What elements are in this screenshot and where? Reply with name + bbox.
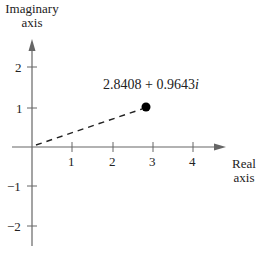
y-tick-label-neg2: −2 xyxy=(7,220,21,233)
imaginary-axis-label-line1: Imaginary xyxy=(1,2,63,16)
point-label-value: 2.8408 + 0.9643 xyxy=(103,77,195,92)
y-tick-label-2: 2 xyxy=(15,61,22,74)
imaginary-axis-label-line2: axis xyxy=(1,16,63,30)
imaginary-axis-label: Imaginary axis xyxy=(1,2,63,30)
y-tick-label-neg1: −1 xyxy=(7,180,21,193)
complex-point xyxy=(142,103,151,112)
imaginary-axis-arrow-icon xyxy=(29,39,36,51)
x-tick-label-1: 1 xyxy=(68,155,75,168)
x-tick-label-2: 2 xyxy=(109,155,116,168)
real-axis-arrow-icon xyxy=(214,144,226,151)
vector-dashed-line xyxy=(36,109,142,145)
real-axis-label-line1: Real xyxy=(226,157,262,171)
imaginary-unit: i xyxy=(195,77,199,92)
point-label: 2.8408 + 0.9643i xyxy=(103,78,199,91)
real-axis-label: Real axis xyxy=(226,157,262,185)
real-axis-label-line2: axis xyxy=(226,171,262,185)
x-tick-label-3: 3 xyxy=(149,155,156,168)
x-tick-label-4: 4 xyxy=(189,155,196,168)
complex-plane xyxy=(0,0,262,256)
y-tick-label-1: 1 xyxy=(16,102,23,115)
